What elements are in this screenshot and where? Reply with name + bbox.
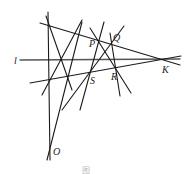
line-vertical-o (48, 12, 50, 160)
figure-caption: 图 (82, 166, 90, 174)
label-o: O (53, 146, 60, 157)
label-k: K (161, 64, 170, 75)
label-p: P (88, 38, 95, 49)
line-o-left (47, 22, 82, 160)
label-s: S (90, 75, 95, 86)
projective-lines-diagram: l P Q S R K O 图 (0, 0, 196, 174)
label-l: l (14, 55, 17, 66)
label-q: Q (113, 32, 121, 43)
label-r: R (110, 71, 117, 82)
geometry-figure: l P Q S R K O 图 (0, 0, 196, 174)
line-ps (80, 22, 104, 110)
